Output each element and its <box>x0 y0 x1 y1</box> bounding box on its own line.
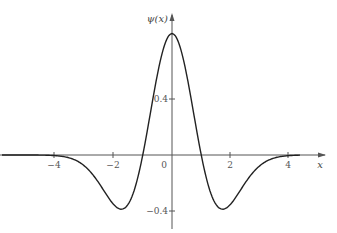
y-axis-label: ψ(x) <box>147 13 168 24</box>
y-axis-arrow-icon <box>170 13 175 21</box>
x-tick-label: −2 <box>106 160 119 170</box>
x-axis-label: x <box>317 159 323 170</box>
x-tick-label: 2 <box>227 160 233 170</box>
y-tick-label-neg: −0.4 <box>146 206 168 216</box>
x-tick-label: 0 <box>161 160 167 170</box>
x-tick-label: −4 <box>47 160 61 170</box>
wavelet-curve <box>2 34 300 210</box>
wavelet-plot: −4 −2 0 2 4 0.4 −0.4 ψ(x) x <box>0 0 337 233</box>
x-axis-arrow-icon <box>318 153 326 158</box>
y-tick-label-pos: 0.4 <box>154 94 169 104</box>
x-tick-label: 4 <box>285 160 291 170</box>
